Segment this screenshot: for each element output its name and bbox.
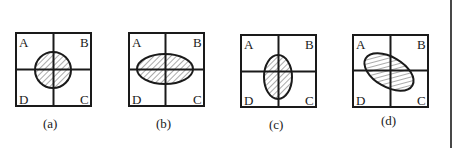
quadrant-label-a: A [356, 37, 366, 52]
quadrant-label-b: B [80, 35, 89, 50]
panel-caption: (c) [269, 117, 283, 132]
quadrant-label-c: C [417, 93, 426, 108]
quadrant-label-d: D [19, 92, 28, 107]
quadrant-label-b: B [305, 37, 314, 52]
quadrant-label-c: C [305, 93, 314, 108]
quadrant-label-c: C [193, 92, 202, 107]
quadrant-figure: A B C D (a) A B C D (b) A B C D (c) A B … [0, 0, 459, 150]
quadrant-label-d: D [356, 93, 365, 108]
panel-a: A B C D (a) [16, 33, 91, 131]
panel-b: A B C D (b) [129, 33, 204, 131]
quadrant-label-b: B [193, 35, 202, 50]
panel-caption: (b) [156, 116, 171, 131]
quadrant-label-d: D [244, 93, 253, 108]
panel-caption: (a) [43, 116, 57, 131]
quadrant-label-c: C [80, 92, 89, 107]
quadrant-label-a: A [132, 35, 142, 50]
quadrant-label-b: B [417, 37, 426, 52]
quadrant-label-a: A [244, 37, 254, 52]
panel-c: A B C D (c) [241, 35, 316, 132]
hatched-tilted-ellipse [358, 46, 420, 99]
panel-caption: (d) [381, 113, 396, 128]
panel-d: A B C D (d) [353, 35, 428, 128]
quadrant-label-d: D [132, 92, 141, 107]
quadrant-label-a: A [19, 35, 29, 50]
